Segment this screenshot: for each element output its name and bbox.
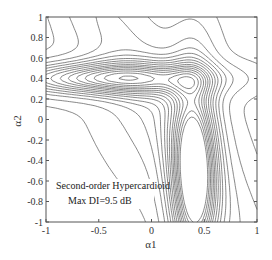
y-tick-label: 0.4 (31, 73, 44, 84)
x-tick-label: 0.5 (198, 225, 211, 236)
y-tick-label: -0.4 (27, 155, 43, 166)
x-tick-label: -1 (42, 225, 50, 236)
y-tick-label: -0.6 (27, 176, 43, 187)
x-axis-label: α1 (145, 238, 156, 250)
annotation-title: Second-order Hypercardioid (56, 180, 170, 191)
y-tick-label: -1 (35, 217, 43, 228)
x-tick-label: -0.5 (91, 225, 107, 236)
y-tick-label: 1 (38, 12, 43, 23)
y-tick-label: 0.6 (31, 53, 44, 64)
y-tick-label: 0.8 (31, 32, 44, 43)
y-tick-label: -0.2 (27, 135, 43, 146)
y-tick-label: 0.2 (31, 94, 44, 105)
x-tick-label: 1 (255, 225, 260, 236)
y-tick-label: -0.8 (27, 196, 43, 207)
x-tick-label: 0 (149, 225, 154, 236)
y-axis-label: α2 (11, 115, 23, 126)
contour-chart: -1-0.500.51 -1-0.8-0.6-0.4-0.200.20.40.6… (0, 0, 272, 260)
annotation-max-di: Max DI=9.5 dB (68, 195, 132, 206)
y-tick-label: 0 (38, 114, 43, 125)
